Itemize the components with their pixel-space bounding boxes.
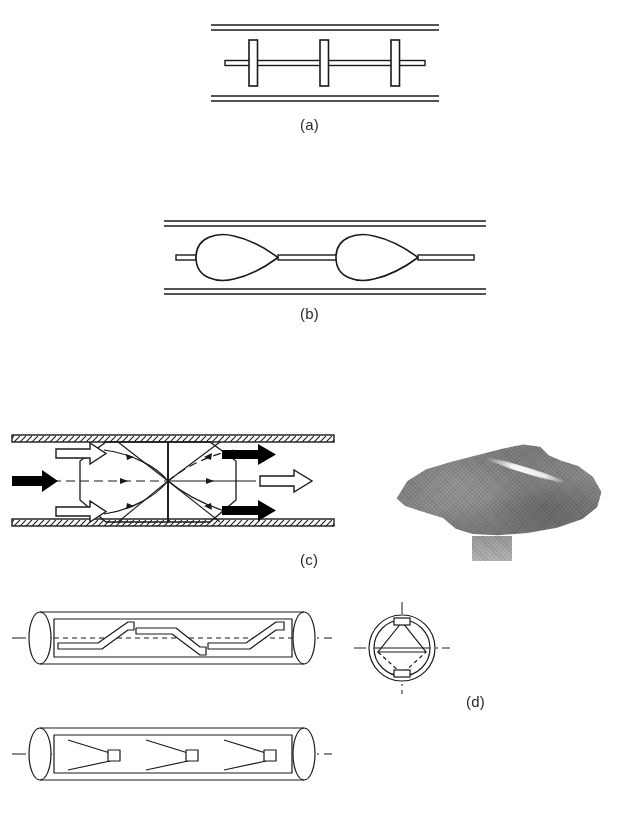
panel-label-b: (b) [300, 305, 319, 322]
panel-d-isometric-pipe-bottom [12, 714, 332, 794]
panel-a-disc-pig [205, 22, 445, 107]
panel-d-isometric-pipe-top [12, 598, 332, 678]
panel-label-a: (a) [300, 116, 319, 133]
flow-arrow-solid-inlet [12, 470, 58, 492]
pig-photograph [378, 420, 618, 570]
pig-disc [391, 40, 400, 86]
panel-d-cross-section [352, 600, 452, 696]
panel-a-drawing [205, 22, 445, 107]
panel-d-bottom-drawing [12, 714, 332, 794]
panel-c-drawing [8, 428, 338, 538]
photo-halftone-grain [392, 438, 603, 546]
figure-root: (a) [0, 0, 643, 813]
panel-d-cross-drawing [352, 600, 452, 696]
panel-d-top-drawing [12, 598, 332, 678]
panel-b-cup-pig [160, 218, 490, 300]
pig-cup [196, 235, 278, 281]
pipe-wall-lower [211, 96, 439, 101]
panel-c-bypass-flow-pig [8, 428, 338, 538]
blade-pad [394, 618, 410, 625]
pig-carrier-body [54, 735, 292, 773]
pipe-wall-upper [164, 221, 486, 226]
pig-cup [336, 235, 418, 281]
pig-disc [320, 40, 329, 86]
pipe-wall-upper [211, 25, 439, 30]
panel-label-c: (c) [300, 551, 318, 568]
pipe-wall-lower [164, 289, 486, 294]
flow-arrow-solid-lower-right [222, 500, 276, 521]
panel-b-drawing [160, 218, 490, 300]
flow-arrow-open-outlet [260, 470, 312, 492]
blade-pad [394, 670, 410, 677]
flow-arrow-solid-upper-right [222, 444, 276, 465]
pipe-wall-upper-hatched [12, 435, 334, 442]
panel-label-d: (d) [466, 693, 485, 710]
pig-disc [249, 40, 258, 86]
photo-stem [472, 536, 513, 562]
photo-wrapper [378, 420, 618, 570]
